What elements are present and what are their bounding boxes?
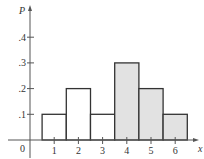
y-tick-label: .2: [19, 83, 27, 94]
x-tick-label: 2: [76, 145, 81, 156]
x-axis-label: x: [197, 143, 203, 154]
bar-5: [139, 89, 163, 140]
bars-group: [42, 63, 187, 140]
y-axis-arrow-icon: [28, 5, 32, 11]
x-tick-label: 4: [124, 145, 129, 156]
x-tick-label: 6: [173, 145, 178, 156]
bar-1: [42, 114, 66, 140]
x-tick-label: 3: [100, 145, 105, 156]
bar-6: [163, 114, 187, 140]
y-axis-label: P: [18, 5, 25, 16]
x-tick-label: 5: [149, 145, 154, 156]
y-tick-label: .1: [19, 109, 27, 120]
bar-3: [91, 114, 115, 140]
origin-label: 0: [20, 143, 25, 154]
x-axis-arrow-icon: [193, 138, 199, 142]
x-tick-label: 1: [52, 145, 57, 156]
probability-histogram: 123456.1.2.3.4 P x 0: [0, 0, 204, 159]
y-tick-label: .3: [19, 57, 27, 68]
y-tick-label: .4: [19, 32, 27, 43]
bar-4: [115, 63, 139, 140]
bar-2: [66, 89, 90, 140]
